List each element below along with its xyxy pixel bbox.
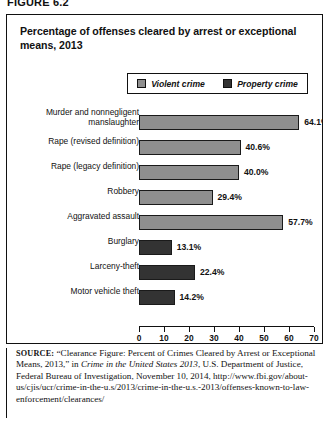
bar[interactable]: [139, 265, 195, 280]
x-axis-tick: [314, 327, 315, 332]
figure-number-label: FIGURE 6.2: [7, 0, 69, 8]
x-axis-tick: [289, 327, 290, 332]
x-axis-line: [139, 326, 314, 327]
x-axis-tick-label: 0: [137, 333, 142, 343]
bar-track: 29.4%: [139, 190, 320, 205]
source-italic-title: Crime in the United States 2013: [81, 359, 198, 369]
bar-track: 14.2%: [139, 290, 320, 305]
bar-category-label: Murder and nonnegligentmanslaughter: [17, 107, 139, 128]
bar[interactable]: [139, 290, 175, 305]
bar-track: 22.4%: [139, 265, 320, 280]
bar-value-label: 14.2%: [180, 292, 204, 302]
bar-track: 57.7%: [139, 215, 320, 230]
x-axis-tick-label: 60: [284, 333, 293, 343]
bar-category-label: Burglary: [17, 236, 139, 246]
bar-track: 64.1%: [139, 115, 320, 130]
chart-legend: Violent crime Property crime: [127, 73, 308, 94]
bar-value-label: 13.1%: [177, 242, 201, 252]
x-axis-tick: [164, 327, 165, 332]
bar-track: 40.0%: [139, 165, 320, 180]
figure-page: FIGURE 6.2 Percentage of offenses cleare…: [0, 0, 331, 422]
bar-row: Rape (revised definition)40.6%: [7, 136, 323, 161]
source-prefix: SOURCE:: [16, 349, 54, 358]
bar-row: Motor vehicle theft14.2%: [7, 286, 323, 311]
chart-title: Percentage of offenses cleared by arrest…: [20, 25, 305, 52]
bar-row: Rape (legacy definition)40.0%: [7, 161, 323, 186]
bar-row: Murder and nonnegligentmanslaughter64.1%: [7, 111, 323, 136]
bar-row: Burglary13.1%: [7, 236, 323, 261]
bar-row: Robbery29.4%: [7, 186, 323, 211]
bar-track: 13.1%: [139, 240, 320, 255]
bar-category-label: Rape (legacy definition): [17, 161, 139, 171]
x-axis-tick-label: 70: [309, 333, 318, 343]
legend-swatch-icon-violent: [137, 79, 146, 88]
bar[interactable]: [139, 215, 283, 230]
bar-value-label: 40.6%: [246, 142, 270, 152]
legend-label-violent: Violent crime: [151, 79, 205, 89]
bar-value-label: 57.7%: [288, 217, 312, 227]
bar-row: Larceny-theft22.4%: [7, 261, 323, 286]
x-axis-tick: [214, 327, 215, 332]
bar-row: Aggravated assault57.7%: [7, 211, 323, 236]
legend-swatch-icon-property: [223, 79, 232, 88]
x-axis-tick-label: 10: [159, 333, 168, 343]
bar-category-label: Larceny-theft: [17, 261, 139, 271]
bar-category-label: Robbery: [17, 186, 139, 196]
legend-label-property: Property crime: [237, 79, 298, 89]
source-note: SOURCE: “Clearance Figure: Percent of Cr…: [6, 348, 323, 418]
x-axis-tick-label: 30: [209, 333, 218, 343]
bar-category-label: Rape (revised definition): [17, 136, 139, 146]
bar[interactable]: [139, 165, 239, 180]
x-axis-tick-label: 40: [234, 333, 243, 343]
x-axis-tick-label: 50: [259, 333, 268, 343]
bar[interactable]: [139, 190, 213, 205]
x-axis-tick-label: 20: [184, 333, 193, 343]
bar-value-label: 64.1%: [304, 117, 323, 127]
legend-item-property-crime: Property crime: [223, 79, 298, 89]
bar-category-label: Aggravated assault: [17, 211, 139, 221]
bar[interactable]: [139, 140, 241, 155]
plot-area: Murder and nonnegligentmanslaughter64.1%…: [7, 111, 323, 326]
x-axis-tick: [239, 327, 240, 332]
x-axis-tick: [189, 327, 190, 332]
bar-track: 40.6%: [139, 140, 320, 155]
x-axis: 010203040506070: [139, 326, 314, 327]
x-axis-tick: [264, 327, 265, 332]
x-axis-tick: [139, 327, 140, 332]
bar-category-label: Motor vehicle theft: [17, 286, 139, 296]
chart-frame: Percentage of offenses cleared by arrest…: [6, 14, 323, 344]
bar-value-label: 29.4%: [218, 192, 242, 202]
bar[interactable]: [139, 240, 172, 255]
bar[interactable]: [139, 115, 299, 130]
bar-value-label: 40.0%: [244, 167, 268, 177]
legend-item-violent-crime: Violent crime: [137, 79, 205, 89]
bar-value-label: 22.4%: [200, 267, 224, 277]
source-paragraph: SOURCE: “Clearance Figure: Percent of Cr…: [16, 348, 323, 405]
